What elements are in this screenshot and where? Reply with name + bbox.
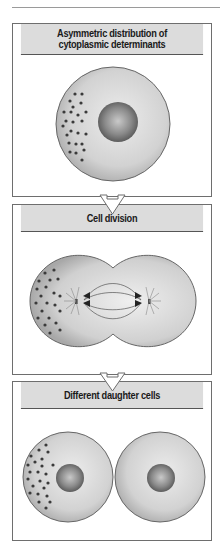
dividing-cell xyxy=(30,255,196,346)
nucleus xyxy=(147,464,175,492)
nucleus xyxy=(56,464,84,492)
down-arrow-icon xyxy=(100,373,125,391)
nucleus xyxy=(98,102,138,142)
daughter-cell-with-determinants xyxy=(23,432,113,522)
down-arrow-icon xyxy=(100,195,125,214)
daughter-cell-without-determinants xyxy=(115,432,205,522)
cell-with-determinants xyxy=(56,67,170,181)
diagram-artwork xyxy=(0,0,224,555)
